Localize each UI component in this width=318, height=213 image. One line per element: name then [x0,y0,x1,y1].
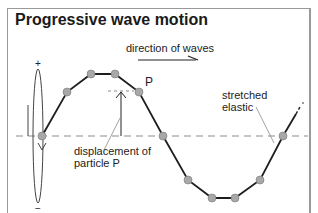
displacement-label-1: displacement of [74,145,151,157]
direction-label: direction of waves [126,42,214,54]
plus-label: + [35,58,41,70]
elastic-label-1: stretched [222,89,267,101]
displacement-label-2: particle P [74,157,120,169]
wave-diagram [0,0,318,213]
particle-p-label: P [145,76,153,88]
elastic-label-2: elastic [222,101,253,113]
minus-label: − [35,203,41,213]
